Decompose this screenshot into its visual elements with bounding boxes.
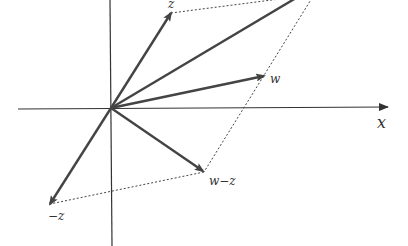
dotted-guide-wminusz-to-negz xyxy=(50,172,204,204)
x-axis-label: x xyxy=(377,113,386,132)
label-z: z xyxy=(167,0,175,11)
y-axis xyxy=(110,0,112,246)
label-w-minus-z: w−z xyxy=(209,174,236,188)
label-w: w xyxy=(270,72,281,86)
diagram-canvas: z w w−z −z x xyxy=(0,0,408,246)
vector-neg-z xyxy=(50,108,111,204)
x-axis xyxy=(18,107,388,109)
vector-diagram: z w w−z −z x xyxy=(0,0,408,246)
vector-w-plus-z xyxy=(111,0,296,108)
label-neg-z: −z xyxy=(48,209,65,223)
vector-w xyxy=(111,76,264,108)
vector-w-minus-z xyxy=(111,108,203,171)
vector-z xyxy=(111,13,171,108)
